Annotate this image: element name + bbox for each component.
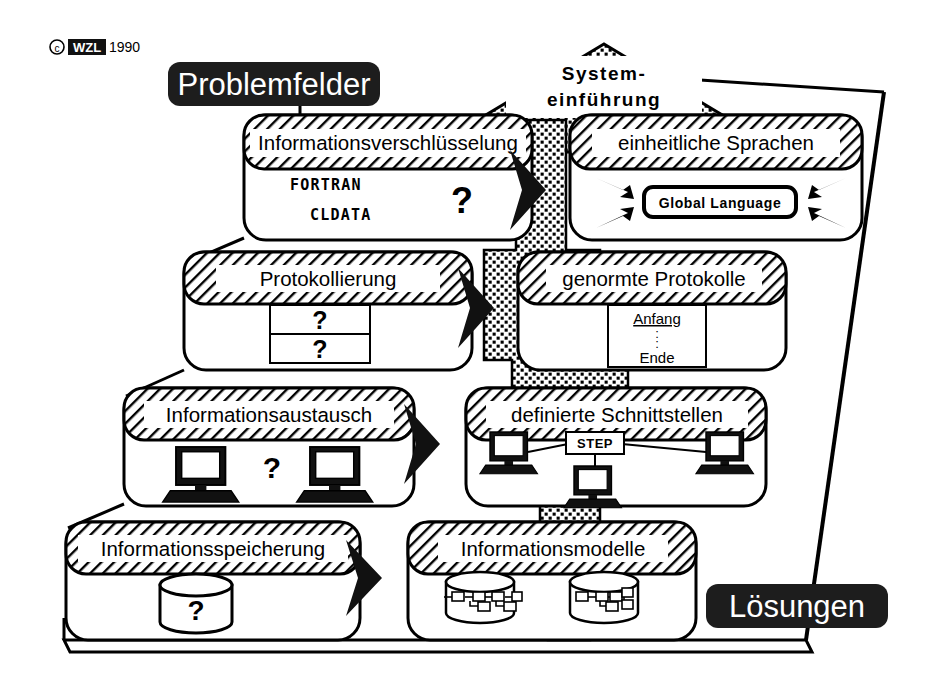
protocol-table: ? ? [270,305,370,363]
information-model-cylinder-icon [570,572,638,623]
protocol-listing: Anfang : : Ende [608,305,706,367]
panel-problem-2[interactable]: Protokollierung ? ? [184,252,472,370]
peak-caption-line2: einführung [547,89,661,110]
question-mark-row1: ? [451,180,473,221]
copyright-icon: c [55,43,60,54]
panel-title-solution-4: Informationsmodelle [461,537,646,560]
panel-solution-3[interactable]: definierte Schnittstellen STEP [466,388,766,508]
banner-problemfelder-label: Problemfelder [178,67,371,102]
panel-problem-4[interactable]: Informationsspeicherung ? [66,522,360,640]
panel-problem-3[interactable]: Informationsaustausch ? [124,388,414,506]
panel-title-problem-4: Informationsspeicherung [101,537,326,560]
copyright-year: 1990 [109,39,140,55]
wzl-logo-label: WZL [73,40,101,55]
panel-solution-1[interactable]: einheitliche Sprachen Global Language [570,115,862,240]
listing-line-anfang: Anfang [633,310,681,327]
panel-solution-4[interactable]: Informationsmodelle [408,522,696,640]
panel-problem-1[interactable]: Informationsverschlüsselung FORTRAN CLDA… [244,115,532,240]
panel-solution-2[interactable]: genormte Protokolle Anfang : : Ende [518,252,786,370]
global-language-label: Global Language [659,195,782,211]
question-mark-row3: ? [263,451,281,484]
banner-loesungen-label: Lösungen [729,589,865,624]
listing-line-ende: Ende [639,349,674,366]
table-cell-unknown-1: ? [312,306,327,334]
question-mark-row4: ? [187,595,204,626]
copyright-notice: c WZL 1990 [50,39,140,55]
diagram-svg: Informationsverschlüsselung FORTRAN CLDA… [0,0,940,674]
panel-title-solution-1: einheitliche Sprachen [618,131,814,154]
step-chip-label: STEP [577,436,613,451]
diagram-canvas: Informationsverschlüsselung FORTRAN CLDA… [0,0,940,674]
panel-title-solution-2: genormte Protokolle [562,267,745,290]
information-model-cylinder-icon [444,572,522,623]
panel-title-problem-1: Informationsverschlüsselung [258,131,518,154]
peak-caption-line1: System- [562,63,646,84]
table-cell-unknown-2: ? [312,335,327,363]
panel-title-solution-3: definierte Schnittstellen [511,403,723,426]
banner-loesungen[interactable]: Lösungen [706,584,888,628]
lang-item-fortran: FORTRAN [290,176,362,194]
lang-item-cldata: CLDATA [310,206,371,224]
banner-problemfelder[interactable]: Problemfelder [168,62,380,106]
panel-title-problem-2: Protokollierung [260,267,397,290]
panel-title-problem-3: Informationsaustausch [166,403,372,426]
